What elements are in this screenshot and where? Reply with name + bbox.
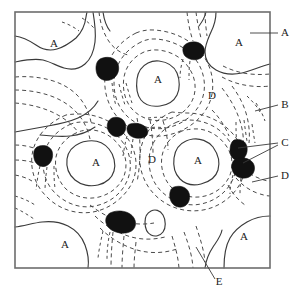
region-label-a-mid-left: A (92, 156, 100, 168)
callout-label-b: B (281, 98, 288, 110)
dashed-strain-rightlow-a (230, 175, 233, 194)
dashed-strain-topleft-a (112, 83, 116, 106)
region-label-d-center: D (148, 153, 156, 165)
grain-center-lower (170, 186, 190, 207)
dashed-contour-group (15, 12, 270, 268)
region-label-d-upper-right: D (208, 89, 216, 101)
solid-contour-midleft-a (67, 141, 115, 186)
dashed-corridor-bottomvert-3 (134, 242, 136, 268)
dashed-corridor-bottomright-1 (184, 232, 193, 268)
dashed-corridor-topright-1 (187, 12, 193, 41)
dashed-corridor-rightupper-1 (223, 66, 270, 74)
dashed-arc-mid-sm (146, 127, 166, 128)
dashed-strain-left-b (45, 167, 47, 191)
dashed-arc-right-sm (247, 96, 260, 112)
dashed-corridor-bottomright-3 (172, 236, 179, 268)
grain-upper-left (96, 57, 119, 80)
dashed-arc-topmid-sm (82, 18, 95, 29)
solid-contour-leftmid-lower (40, 127, 95, 136)
leader-line-c-lower (243, 145, 278, 163)
callout-label-c: C (281, 136, 288, 148)
region-label-a-top-center: A (154, 73, 162, 85)
grain-bottom-left (106, 211, 136, 233)
dashed-strain-topleft-b (119, 84, 125, 105)
dashed-strain-left-c (54, 166, 55, 188)
region-label-a-bottom-right: A (240, 230, 248, 242)
solid-contour-group (15, 12, 270, 268)
dashed-corridor-right-2 (222, 88, 243, 148)
dashed-arc-right-sm2 (256, 103, 265, 121)
dashed-arc-topleft-sm (62, 22, 79, 31)
region-label-a-top-left: A (50, 37, 58, 49)
dashed-corridor-bottomvert-2 (122, 236, 124, 268)
dashed-corridor-top (99, 12, 128, 55)
dashed-strain-topleft-c (126, 83, 132, 103)
leader-line-e (196, 247, 215, 279)
grain-group (34, 42, 255, 233)
callout-label-a: A (281, 26, 289, 38)
dashed-ring-midright-2 (149, 120, 236, 205)
callout-label-d: D (281, 169, 289, 181)
dashed-strain-right-c (252, 124, 255, 143)
dashed-strain-topright-b (189, 61, 190, 80)
solid-contour-leftmid-sweep (15, 101, 98, 132)
figure-root: A A A D A D A A A A B C D E (0, 0, 296, 294)
diagram-frame (15, 12, 270, 268)
solid-contour-bottomright-a (224, 216, 270, 268)
grain-center-upper-b (127, 123, 148, 138)
dashed-strain-center-b (131, 139, 133, 158)
solid-contour-bottomright-inner (205, 230, 222, 268)
dashed-arc-bottomleft-sm (15, 196, 35, 205)
dashed-corridor-left-3 (15, 175, 32, 181)
dashed-strain-bottomleft-a (107, 232, 110, 259)
contour-diagram-svg: A A A D A D A A A A B C D E (0, 0, 296, 294)
region-label-a-mid-right: A (194, 154, 202, 166)
grain-right-lower (232, 158, 255, 178)
grain-left-mid (34, 146, 53, 167)
grain-top-center-right (183, 42, 205, 60)
dashed-strain-right-b (244, 120, 247, 141)
dashed-corridor-topleft-1 (15, 77, 91, 122)
leader-line-b (255, 105, 278, 111)
solid-contour-bottomleft-a (15, 222, 88, 268)
dashed-corridor-topright-3 (205, 12, 207, 36)
region-label-a-top-right: A (235, 36, 243, 48)
dashed-corridor-right-1 (232, 86, 249, 143)
region-label-a-bottom-left: A (61, 238, 69, 250)
dashed-strain-topright-a (180, 59, 183, 78)
grain-center-upper-a (107, 117, 126, 136)
grain-right-upper (230, 139, 247, 160)
dashed-strain-rightlow-b (240, 178, 241, 196)
dashed-arc-mid-sm2 (148, 117, 168, 118)
solid-contour-bottom-cell (145, 210, 165, 236)
dashed-strain-bottomleft-b (98, 231, 103, 258)
solid-contour-upper-short (103, 12, 110, 31)
dashed-corridor-rightupper-2 (222, 77, 270, 87)
dashed-arc-bottomleft-sm2 (15, 208, 34, 219)
callout-label-e: E (216, 275, 223, 287)
dashed-corridor-bottomright-2 (196, 226, 205, 262)
dashed-ring-midleft-1 (55, 130, 126, 198)
